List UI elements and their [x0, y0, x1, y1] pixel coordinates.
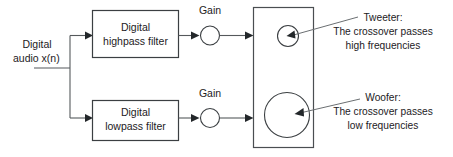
gain-low-input-arrow [191, 114, 200, 122]
gain-low-label: Gain [199, 87, 221, 99]
tweeter-note-line3: high frequencies [346, 40, 421, 51]
highpass-input-arrow [85, 32, 93, 40]
gain-high-group[interactable]: Gain [199, 4, 221, 45]
input-label-group: Digital audio x(n) [13, 38, 60, 64]
highpass-filter-box[interactable] [93, 11, 179, 58]
lowpass-label-line1: Digital [121, 106, 150, 118]
input-label-line2: audio x(n) [13, 52, 60, 64]
highpass-filter-block[interactable]: Digital highpass filter [93, 11, 179, 58]
crossover-diagram: Digital audio x(n) Digital highpass filt… [0, 0, 453, 157]
gain-high-to-tweeter-wiring [220, 32, 254, 40]
highpass-label-line2: highpass filter [103, 35, 168, 47]
tweeter-feed-arrow [245, 32, 254, 40]
gain-high-label: Gain [199, 4, 221, 16]
highpass-label-line1: Digital [121, 21, 150, 33]
lowpass-label-line2: lowpass filter [105, 120, 166, 132]
gain-high-symbol[interactable] [201, 26, 220, 45]
lowpass-to-gain-wiring [179, 114, 200, 122]
input-label-line1: Digital [22, 38, 51, 50]
highpass-to-gain-wiring [179, 32, 200, 40]
woofer-note-line3: low frequencies [348, 120, 419, 131]
tweeter-annotation-text: Tweeter: The crossover passes high frequ… [333, 12, 433, 51]
gain-low-group[interactable]: Gain [199, 87, 221, 128]
tweeter-note-line1: Tweeter: [363, 12, 402, 23]
woofer-annotation-text: Woofer: The crossover passes low frequen… [333, 92, 433, 131]
input-signal-name: x(n) [42, 52, 60, 64]
tweeter-note-line2: The crossover passes [333, 26, 433, 37]
input-label-audio: audio [13, 52, 42, 64]
woofer-note-line2: The crossover passes [333, 106, 433, 117]
gain-low-to-woofer-wiring [220, 114, 254, 122]
gain-low-symbol[interactable] [201, 109, 220, 128]
woofer-feed-arrow [245, 114, 254, 122]
diagram-canvas: Digital audio x(n) Digital highpass filt… [0, 0, 453, 157]
lowpass-filter-block[interactable]: Digital lowpass filter [93, 101, 179, 141]
woofer-note-line1: Woofer: [365, 92, 400, 103]
gain-high-input-arrow [191, 32, 200, 40]
loudspeaker-cabinet-group[interactable] [254, 8, 314, 148]
lowpass-input-arrow [85, 114, 93, 122]
